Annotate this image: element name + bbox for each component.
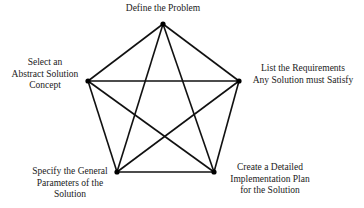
edge-define-requirements — [163, 24, 239, 81]
edge-requirements-parameters — [117, 81, 239, 172]
node-dot-implementation — [211, 169, 216, 174]
node-label-requirements: List the Requirements Any Solution must … — [242, 63, 364, 86]
node-label-implementation: Create a Detailed Implementation Plan fo… — [220, 162, 320, 197]
node-dot-parameters — [114, 169, 119, 174]
label-line: Parameters of the — [26, 178, 114, 190]
edge-define-parameters — [117, 24, 163, 172]
label-line: Abstract Solution — [2, 69, 88, 81]
nodes — [85, 21, 241, 174]
edge-implementation-concept — [88, 81, 214, 172]
label-line: Solution — [26, 189, 114, 201]
node-label-define: Define the Problem — [103, 3, 223, 15]
label-line: Any Solution must Satisfy — [242, 75, 364, 87]
label-line: Define the Problem — [103, 3, 223, 15]
edge-requirements-implementation — [214, 81, 239, 172]
node-label-concept: Select an Abstract Solution Concept — [2, 57, 88, 92]
label-line: Implementation Plan — [220, 174, 320, 186]
edge-define-concept — [88, 24, 163, 81]
label-line: Select an — [2, 57, 88, 69]
edges — [88, 24, 239, 172]
label-line: Concept — [2, 80, 88, 92]
node-label-parameters: Specify the General Parameters of the So… — [26, 166, 114, 201]
label-line: Specify the General — [26, 166, 114, 178]
node-dot-define — [160, 21, 165, 26]
label-line: Create a Detailed — [220, 162, 320, 174]
edge-define-implementation — [163, 24, 214, 172]
label-line: for the Solution — [220, 185, 320, 197]
label-line: List the Requirements — [242, 63, 364, 75]
node-dot-requirements — [236, 78, 241, 83]
edge-parameters-concept — [88, 81, 117, 172]
